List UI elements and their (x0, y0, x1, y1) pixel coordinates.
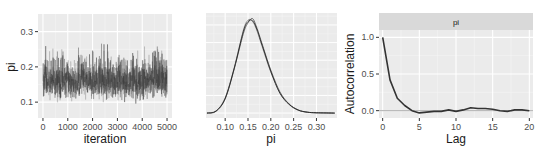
x-tick-label: 10 (451, 122, 461, 132)
x-tick-label: 3000 (107, 122, 127, 132)
density-plot-panel: 0.100.150.200.250.30 pi (206, 13, 337, 146)
x-tick-label: 0.30 (308, 122, 326, 132)
x-tick-label: 5 (417, 122, 422, 132)
trace-plot-y-label: pi (4, 62, 18, 71)
facet-strip-label: pi (453, 18, 459, 27)
autocorrelation-plot-panel: pi 051015200.00.51.0 Lag Autocorrelation (343, 13, 534, 146)
x-tick-label: 1000 (58, 122, 78, 132)
y-tick-label: 0.0 (361, 106, 374, 116)
x-tick-label: 0 (380, 122, 385, 132)
density-plot-x-label: pi (266, 132, 275, 146)
y-tick-label: 0.5 (361, 69, 374, 79)
trace-plot-x-label: iteration (84, 132, 127, 146)
autocorrelation-y-label: Autocorrelation (343, 34, 357, 115)
x-tick-label: 5000 (157, 122, 177, 132)
x-tick-label: 15 (488, 122, 498, 132)
y-tick-label: 0.2 (20, 62, 33, 72)
y-tick-label: 0.3 (20, 27, 33, 37)
x-tick-label: 0.25 (285, 122, 303, 132)
x-tick-label: 0.20 (262, 122, 280, 132)
autocorrelation-x-label: Lag (446, 132, 466, 146)
y-tick-label: 1.0 (361, 32, 374, 42)
x-tick-label: 0 (40, 122, 45, 132)
trace-plot-panel: 0100020003000400050000.10.20.3 iteration… (4, 14, 177, 146)
y-tick-label: 0.1 (20, 97, 33, 107)
x-tick-label: 2000 (83, 122, 103, 132)
x-tick-label: 0.15 (239, 122, 257, 132)
x-tick-label: 20 (524, 122, 534, 132)
x-tick-label: 0.10 (216, 122, 234, 132)
mcmc-diagnostics-figure: 0100020003000400050000.10.20.3 iteration… (0, 0, 539, 155)
x-tick-label: 4000 (132, 122, 152, 132)
density-plot-axis-ticks: 0.100.150.200.250.30 (216, 118, 325, 132)
